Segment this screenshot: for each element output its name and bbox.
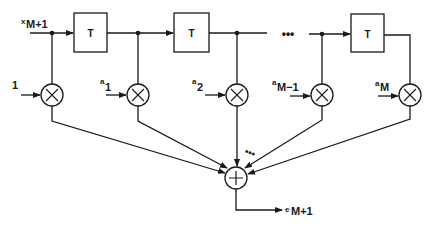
output-prefix: e [285,205,290,214]
delay-label-2: T [188,28,194,39]
delay-label-1: T [87,28,93,39]
coef-sub-3: M−1 [277,81,299,93]
output-line [236,189,282,210]
sum-line-3 [245,106,322,168]
output-subscript: M+1 [291,205,313,217]
fir-filter-diagram: T T T ••• ••• x M+1 1 a 1 a 2 a M−1 a M … [0,0,434,229]
coef-sub-4: M [380,81,389,93]
coef-sub-2: 2 [197,81,203,93]
ellipsis-sum: ••• [243,146,257,160]
ellipsis-main: ••• [282,27,295,41]
coef-label-0: 1 [12,79,18,91]
delay-label-3: T [364,29,370,40]
delay-line-4 [384,35,410,84]
sum-line-1 [138,106,227,168]
sum-line-4 [248,106,410,174]
input-subscript: M+1 [26,18,48,30]
coef-sub-1: 1 [105,81,111,93]
